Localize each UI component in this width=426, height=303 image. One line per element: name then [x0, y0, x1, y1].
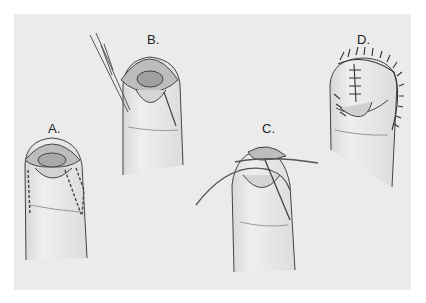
panel-label-c: C.	[262, 121, 275, 136]
panel-label-b: B.	[147, 32, 159, 47]
finger-b	[90, 33, 183, 175]
panel-label-a: A.	[48, 121, 60, 136]
panel-label-d: D.	[357, 32, 370, 47]
finger-c	[196, 147, 318, 272]
finger-d	[330, 47, 404, 187]
finger-a	[25, 138, 87, 260]
